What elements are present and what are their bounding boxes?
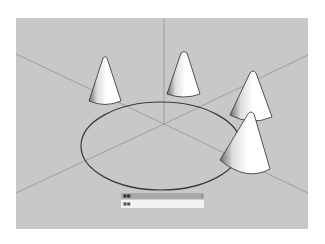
measurements-input[interactable]: ■■ <box>121 199 204 208</box>
cone-left[interactable] <box>89 57 121 105</box>
measurements-box: ■■ x ■■ <box>121 193 204 208</box>
measurements-label-bar: ■■ x <box>121 193 204 199</box>
circle-path[interactable] <box>81 102 241 190</box>
red-axis-negative <box>16 54 164 124</box>
cone-top-center[interactable] <box>167 52 200 98</box>
measurements-label: ■■ <box>123 193 131 198</box>
green-axis-negative <box>16 124 164 193</box>
close-icon[interactable]: x <box>201 193 203 199</box>
